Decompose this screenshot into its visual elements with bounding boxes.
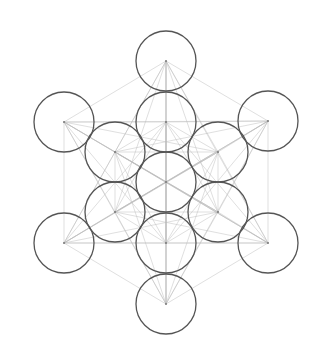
center-point [165, 181, 167, 183]
connecting-line [166, 61, 268, 121]
center-point [114, 151, 116, 153]
center-point [267, 242, 269, 244]
center-point [165, 242, 167, 244]
center-point [63, 121, 65, 123]
center-point [165, 60, 167, 62]
center-point [63, 242, 65, 244]
center-point [165, 121, 167, 123]
connecting-line [166, 243, 268, 304]
center-point [165, 303, 167, 305]
center-point [114, 211, 116, 213]
center-point [217, 211, 219, 213]
connecting-line [64, 243, 166, 304]
connecting-line [64, 61, 166, 122]
center-point [217, 151, 219, 153]
metatrons-cube-diagram [0, 0, 314, 356]
center-point [267, 120, 269, 122]
